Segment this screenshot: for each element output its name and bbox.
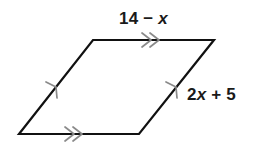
parallelogram-figure: 14 − x 2x + 5 [0, 0, 254, 148]
right-label-coefficient: 2 [187, 85, 197, 104]
right-label-variable: x [197, 85, 207, 104]
parallelogram-outline [19, 40, 214, 134]
top-label-lead: 14 [119, 9, 138, 28]
right-label-constant: 5 [226, 85, 236, 104]
right-side-label: 2x + 5 [187, 86, 236, 103]
top-label-operator-glyph: − [143, 9, 153, 28]
top-side-label: 14 − x [119, 10, 168, 27]
top-label-variable: x [158, 9, 168, 28]
chevron-icon [46, 82, 57, 98]
right-label-operator-glyph: + [211, 85, 221, 104]
left-side-tick-marks [46, 82, 57, 98]
